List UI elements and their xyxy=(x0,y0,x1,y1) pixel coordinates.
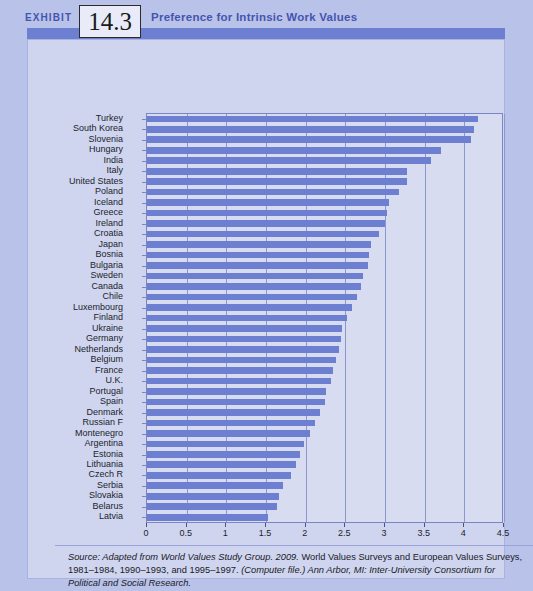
bar-category-label: Slovakia xyxy=(3,490,123,500)
bar xyxy=(147,147,441,154)
bar-category-label: Argentina xyxy=(3,438,123,448)
bar xyxy=(147,451,300,458)
bar xyxy=(147,388,326,395)
y-axis-tick xyxy=(142,329,146,330)
bar-category-label: Chile xyxy=(3,291,123,301)
bar xyxy=(147,367,333,374)
bar-category-label: India xyxy=(3,155,123,165)
bar xyxy=(147,157,431,164)
bar xyxy=(147,399,325,406)
bar xyxy=(147,241,371,248)
bar-category-label: Portugal xyxy=(3,386,123,396)
bar-category-label: Montenegro xyxy=(3,428,123,438)
bar xyxy=(147,231,379,238)
bar-category-label: South Korea xyxy=(3,123,123,133)
bar xyxy=(147,210,387,217)
bar-category-label: Latvia xyxy=(3,511,123,521)
bar-category-label: Lithuania xyxy=(3,459,123,469)
y-axis-tick xyxy=(142,297,146,298)
source-italic-1: Source: Adapted from World Values Study … xyxy=(68,552,299,562)
y-axis-tick xyxy=(142,213,146,214)
y-axis-tick xyxy=(142,203,146,204)
bar xyxy=(147,420,315,427)
x-axis-tick-label: 3 xyxy=(381,528,386,538)
bar-category-label: Slovenia xyxy=(3,134,123,144)
x-axis-tick xyxy=(424,523,425,527)
bar xyxy=(147,189,399,196)
bar-category-label: Sweden xyxy=(3,270,123,280)
x-axis-tick xyxy=(503,523,504,527)
bar-category-label: Serbia xyxy=(3,480,123,490)
x-axis-tick xyxy=(463,523,464,527)
bar-category-label: Ukraine xyxy=(3,323,123,333)
bar xyxy=(147,315,347,322)
y-axis-tick xyxy=(142,171,146,172)
bar-category-label: Estonia xyxy=(3,449,123,459)
bar xyxy=(147,493,279,500)
y-axis-tick xyxy=(142,496,146,497)
x-axis-tick-label: 1.5 xyxy=(259,528,272,538)
y-axis-tick xyxy=(142,318,146,319)
bar xyxy=(147,409,320,416)
bar-category-label: Russian F xyxy=(3,417,123,427)
x-axis-tick-label: 1 xyxy=(223,528,228,538)
bar-category-label: Turkey xyxy=(3,113,123,123)
bar xyxy=(147,294,357,301)
y-axis-tick xyxy=(142,119,146,120)
y-axis-tick xyxy=(142,455,146,456)
x-axis-tick xyxy=(384,523,385,527)
bar-category-label: Belarus xyxy=(3,501,123,511)
x-axis-tick-label: 4 xyxy=(461,528,466,538)
bar xyxy=(147,168,407,175)
y-axis-tick xyxy=(142,255,146,256)
bar-category-label: Denmark xyxy=(3,407,123,417)
y-axis-tick xyxy=(142,475,146,476)
x-axis-tick-label: 4.5 xyxy=(497,528,510,538)
bar xyxy=(147,336,341,343)
y-axis-tick xyxy=(142,224,146,225)
bar xyxy=(147,262,368,269)
bar xyxy=(147,325,342,332)
exhibit-number: 14.3 xyxy=(79,6,141,38)
bar-category-label: Czech R xyxy=(3,469,123,479)
bar-category-label: Netherlands xyxy=(3,344,123,354)
y-axis-tick xyxy=(142,287,146,288)
bar-category-label: France xyxy=(3,365,123,375)
bar xyxy=(147,482,283,489)
bar xyxy=(147,126,474,133)
y-axis-tick xyxy=(142,350,146,351)
bar-category-label: Finland xyxy=(3,312,123,322)
bar-category-label: Croatia xyxy=(3,228,123,238)
bar-category-label: Spain xyxy=(3,396,123,406)
y-axis-tick xyxy=(142,161,146,162)
exhibit-label: EXHIBIT xyxy=(25,12,72,23)
bar xyxy=(147,441,304,448)
x-axis-tick xyxy=(186,523,187,527)
source-note: Source: Adapted from World Values Study … xyxy=(68,551,523,591)
y-axis-tick xyxy=(142,434,146,435)
y-axis-tick xyxy=(142,339,146,340)
bar-category-label: Luxembourg xyxy=(3,302,123,312)
x-axis-tick-label: 3.5 xyxy=(417,528,430,538)
y-axis-tick xyxy=(142,308,146,309)
exhibit-panel: TurkeySouth KoreaSloveniaHungaryIndiaIta… xyxy=(27,39,505,579)
bar xyxy=(147,378,331,385)
bar-category-label: Hungary xyxy=(3,144,123,154)
bar-row: Latvia xyxy=(28,512,506,522)
y-axis-tick xyxy=(142,266,146,267)
bar xyxy=(147,514,268,521)
bar xyxy=(147,116,478,123)
bar xyxy=(147,252,369,259)
y-axis-tick xyxy=(142,360,146,361)
bar-category-label: United States xyxy=(3,176,123,186)
x-axis-tick xyxy=(146,523,147,527)
bar-category-label: Germany xyxy=(3,333,123,343)
y-axis-tick xyxy=(142,129,146,130)
y-axis-tick xyxy=(142,276,146,277)
bar xyxy=(147,283,361,290)
y-axis-tick xyxy=(142,486,146,487)
bar xyxy=(147,136,471,143)
y-axis-tick xyxy=(142,140,146,141)
bar-category-label: Belgium xyxy=(3,354,123,364)
x-axis-tick-label: 0.5 xyxy=(179,528,192,538)
